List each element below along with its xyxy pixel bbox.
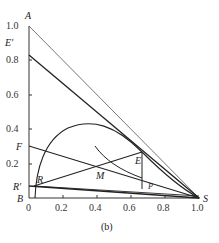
label-E: E xyxy=(134,155,141,166)
line-R-E xyxy=(34,152,142,186)
label-P: P xyxy=(147,182,153,191)
label-A: A xyxy=(24,10,32,21)
x-tick-0: 0 xyxy=(26,202,31,213)
label-M: M xyxy=(95,170,105,181)
label-S: S xyxy=(203,193,208,204)
x-tick-0.2: 0.2 xyxy=(55,202,68,213)
figure-caption: (b) xyxy=(101,221,113,233)
label-R: R xyxy=(36,174,43,185)
ternary-diagram: A E′ F R′ B R M E P S 1.0 0.8 0.6 0.4 0.… xyxy=(0,0,219,243)
x-tick-0.6: 0.6 xyxy=(123,202,136,213)
y-tick-0.4: 0.4 xyxy=(6,123,19,134)
y-tick-0.8: 0.8 xyxy=(6,54,19,65)
line-Rprime-S xyxy=(29,186,199,198)
label-F: F xyxy=(15,141,23,152)
binodal-curve xyxy=(35,124,199,198)
x-tick-0.4: 0.4 xyxy=(89,202,102,213)
y-tick-0.2: 0.2 xyxy=(6,158,19,169)
line-Eprime-S xyxy=(29,55,199,198)
label-R-prime: R′ xyxy=(12,181,22,192)
y-tick-1.0: 1.0 xyxy=(6,20,19,31)
label-B: B xyxy=(17,193,23,204)
x-tick-1.0: 1.0 xyxy=(191,202,204,213)
x-tick-0.8: 0.8 xyxy=(157,202,170,213)
y-tick-0.6: 0.6 xyxy=(6,89,19,100)
label-E-prime: E′ xyxy=(4,37,14,48)
